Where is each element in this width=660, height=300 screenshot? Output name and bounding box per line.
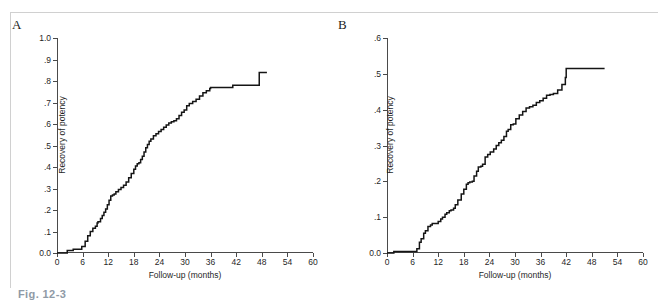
figure-page: A 0.0.1.2.3.4.5.6.7.8.91.0 0612182430364… bbox=[0, 0, 660, 300]
x-axis-title-a: Follow-up (months) bbox=[57, 270, 313, 280]
x-tick-label-b-8: 48 bbox=[587, 257, 596, 267]
plot-area-b: 0.0.1.2.3.4.5.6 06121824303642485460 Fol… bbox=[387, 38, 643, 253]
x-tick-label-a-4: 24 bbox=[155, 257, 164, 267]
y-tick-label-b-6: .6 bbox=[374, 33, 381, 43]
panel-label-b: B bbox=[338, 17, 347, 33]
y-axis-title-b: Recovery of potency bbox=[385, 75, 395, 195]
x-tick-label-b-5: 30 bbox=[510, 257, 519, 267]
x-tick-label-b-1: 6 bbox=[410, 257, 415, 267]
y-tick-label-a-1: .1 bbox=[44, 227, 51, 237]
x-tick-label-a-5: 30 bbox=[180, 257, 189, 267]
x-tick-label-a-10: 60 bbox=[308, 257, 317, 267]
y-tick-label-b-4: .4 bbox=[374, 105, 381, 115]
figure-panels: A 0.0.1.2.3.4.5.6.7.8.91.0 0612182430364… bbox=[0, 0, 660, 285]
x-tick-label-a-9: 54 bbox=[283, 257, 292, 267]
curve-path-b bbox=[387, 68, 605, 253]
y-tick-label-b-5: .5 bbox=[374, 69, 381, 79]
x-tick-label-a-0: 0 bbox=[55, 257, 60, 267]
x-tick-label-b-4: 24 bbox=[485, 257, 494, 267]
y-tick-label-a-9: .9 bbox=[44, 55, 51, 65]
chart-panel-b: B 0.0.1.2.3.4.5.6 06121824303642485460 F… bbox=[330, 0, 660, 285]
panel-label-a: A bbox=[12, 17, 22, 33]
y-tick-label-b-2: .2 bbox=[374, 176, 381, 186]
x-tick-label-a-8: 48 bbox=[257, 257, 266, 267]
chart-panel-a: A 0.0.1.2.3.4.5.6.7.8.91.0 0612182430364… bbox=[0, 0, 330, 285]
x-tick-label-b-2: 12 bbox=[433, 257, 442, 267]
curve-panel-b bbox=[387, 38, 643, 253]
y-tick-label-a-8: .8 bbox=[44, 76, 51, 86]
x-tick-label-b-0: 0 bbox=[385, 257, 390, 267]
y-tick-label-b-3: .3 bbox=[374, 141, 381, 151]
x-tick-label-a-6: 36 bbox=[206, 257, 215, 267]
y-tick-label-a-5: .5 bbox=[44, 141, 51, 151]
x-tick-label-b-3: 18 bbox=[459, 257, 468, 267]
x-tick-label-a-2: 12 bbox=[103, 257, 112, 267]
y-axis-title-a: Recovery of potency bbox=[57, 75, 67, 195]
figure-caption: Fig. 12-3 bbox=[18, 288, 66, 300]
x-axis-title-b: Follow-up (months) bbox=[387, 270, 643, 280]
plot-area-a: 0.0.1.2.3.4.5.6.7.8.91.0 061218243036424… bbox=[57, 38, 313, 253]
y-tick-label-a-2: .2 bbox=[44, 205, 51, 215]
curve-panel-a bbox=[57, 38, 313, 253]
y-tick-label-a-3: .3 bbox=[44, 184, 51, 194]
x-tick-label-b-7: 42 bbox=[561, 257, 570, 267]
curve-path-a bbox=[57, 72, 267, 253]
y-tick-label-a-10: 1.0 bbox=[39, 33, 51, 43]
y-tick-label-a-7: .7 bbox=[44, 98, 51, 108]
x-tick-label-b-9: 54 bbox=[613, 257, 622, 267]
y-tick-label-b-0: 0.0 bbox=[369, 248, 381, 258]
x-tick-label-a-3: 18 bbox=[129, 257, 138, 267]
y-tick-label-a-6: .6 bbox=[44, 119, 51, 129]
y-tick-label-b-1: .1 bbox=[374, 212, 381, 222]
x-tick-label-b-10: 60 bbox=[638, 257, 647, 267]
y-tick-label-a-4: .4 bbox=[44, 162, 51, 172]
x-tick-label-a-7: 42 bbox=[231, 257, 240, 267]
y-tick-label-a-0: 0.0 bbox=[39, 248, 51, 258]
x-tick-label-a-1: 6 bbox=[80, 257, 85, 267]
x-tick-label-b-6: 36 bbox=[536, 257, 545, 267]
